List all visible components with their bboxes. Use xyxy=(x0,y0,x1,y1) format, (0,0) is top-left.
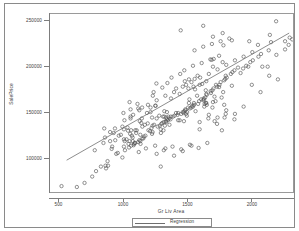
data-point xyxy=(161,86,164,89)
data-point xyxy=(172,90,175,93)
data-point xyxy=(94,169,97,172)
data-point xyxy=(152,90,155,93)
data-point xyxy=(163,124,166,127)
data-point xyxy=(183,69,186,72)
page-frame: 100000150000200000250000 SalePrice 50010… xyxy=(4,3,295,228)
data-point xyxy=(261,65,264,68)
data-point xyxy=(216,68,219,71)
legend-line-swatch xyxy=(135,220,165,225)
data-point xyxy=(274,20,277,23)
data-point xyxy=(213,95,216,98)
data-point xyxy=(248,40,251,43)
data-point xyxy=(288,36,291,39)
data-point xyxy=(170,76,173,79)
data-point xyxy=(259,90,262,93)
data-point xyxy=(195,94,198,97)
data-point xyxy=(159,131,162,134)
data-point xyxy=(83,181,86,184)
data-point xyxy=(99,165,102,168)
data-point xyxy=(143,123,146,126)
data-point xyxy=(127,146,130,149)
data-point xyxy=(136,102,139,105)
data-point xyxy=(233,69,236,72)
x-axis-tick-label: 1000 xyxy=(118,203,129,208)
data-point xyxy=(151,94,154,97)
data-point xyxy=(224,112,227,115)
data-point xyxy=(129,108,132,111)
data-point xyxy=(220,96,223,99)
data-point xyxy=(123,149,126,152)
data-point xyxy=(204,89,207,92)
data-point xyxy=(257,55,260,58)
data-point xyxy=(121,156,124,159)
data-point xyxy=(207,113,210,116)
plot-canvas xyxy=(50,14,293,192)
y-axis-line xyxy=(49,13,50,193)
x-axis-tick: 500 xyxy=(58,198,59,202)
data-point xyxy=(242,105,245,108)
data-point xyxy=(233,59,236,62)
data-point xyxy=(211,106,214,109)
data-point xyxy=(275,53,278,56)
data-point xyxy=(110,147,113,150)
data-point xyxy=(247,65,250,68)
data-point xyxy=(150,116,153,119)
data-point xyxy=(225,109,228,112)
data-point xyxy=(191,64,194,67)
data-point xyxy=(166,81,169,84)
data-point xyxy=(110,145,113,148)
y-axis-tick: 200000 xyxy=(44,66,49,67)
data-point xyxy=(207,72,210,75)
data-point xyxy=(168,123,171,126)
x-axis-tick-label: 500 xyxy=(55,203,63,208)
data-point xyxy=(223,103,226,106)
data-point xyxy=(220,129,223,132)
data-point xyxy=(259,52,262,55)
data-point xyxy=(268,74,271,77)
data-point xyxy=(139,133,142,136)
legend-label-regression: Regression xyxy=(170,220,194,225)
data-point xyxy=(251,59,254,62)
data-point xyxy=(159,165,162,168)
data-point xyxy=(211,65,214,68)
y-axis-title: SalePrice xyxy=(10,83,15,104)
data-point xyxy=(194,109,197,112)
data-point xyxy=(183,80,186,83)
data-point xyxy=(153,144,156,147)
x-axis-tick-label: 2000 xyxy=(247,203,258,208)
data-point xyxy=(216,116,219,119)
data-point xyxy=(221,31,224,34)
data-point xyxy=(179,29,182,32)
y-axis-tick: 100000 xyxy=(44,158,49,159)
data-point xyxy=(181,85,184,88)
data-point xyxy=(187,78,190,81)
data-point xyxy=(241,67,244,70)
data-point xyxy=(200,61,203,64)
x-axis-tick: 1000 xyxy=(123,198,124,202)
data-point xyxy=(207,117,210,120)
data-point xyxy=(239,71,242,74)
data-points-layer xyxy=(60,20,293,189)
data-point xyxy=(197,146,200,149)
data-point xyxy=(182,119,185,122)
data-point xyxy=(75,185,78,188)
data-point xyxy=(114,139,117,142)
data-point xyxy=(102,141,105,144)
data-point xyxy=(172,154,175,157)
data-point xyxy=(206,141,209,144)
data-point xyxy=(212,57,215,60)
data-point xyxy=(283,40,286,43)
data-point xyxy=(217,54,220,57)
data-point xyxy=(93,149,96,152)
data-point xyxy=(198,120,201,123)
data-point xyxy=(128,100,131,103)
data-point xyxy=(250,83,253,86)
y-axis-tick-label: 100000 xyxy=(26,156,42,161)
x-axis-line xyxy=(49,198,294,199)
data-point xyxy=(215,122,218,125)
data-point xyxy=(60,184,63,187)
x-axis-tick-label: 1500 xyxy=(182,203,193,208)
data-point xyxy=(140,106,143,109)
data-point xyxy=(155,82,158,85)
data-point xyxy=(193,77,196,80)
